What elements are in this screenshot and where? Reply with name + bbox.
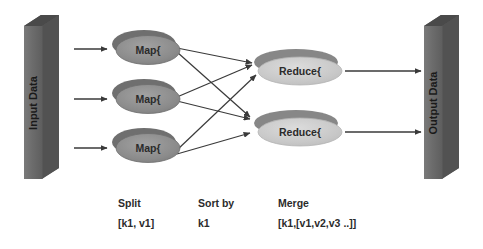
arrow-map1-to-reduce1: [177, 48, 252, 63]
caption-merge-value: [k1,[v1,v2,v3 ..]]: [278, 217, 356, 229]
mapreduce-diagram: Input Data Output Data: [0, 0, 483, 249]
caption-split: Split [k1, v1]: [118, 197, 154, 229]
reduce-node-2-label: Reduce{: [279, 126, 321, 138]
input-block-side-face: [42, 15, 59, 179]
arrow-map2-to-reduce1: [177, 65, 252, 97]
output-data-label: Output Data: [427, 71, 439, 135]
input-data-label: Input Data: [27, 75, 39, 130]
caption-split-value: [k1, v1]: [118, 217, 154, 229]
arrow-map2-to-reduce2: [177, 101, 250, 119]
caption-merge: Merge [k1,[v1,v2,v3 ..]]: [278, 197, 356, 229]
map-to-reduce-arrows: [177, 48, 256, 154]
caption-merge-heading: Merge: [278, 197, 309, 209]
output-block-side-face: [442, 15, 459, 179]
diagram-canvas: Input Data Output Data: [0, 0, 483, 249]
caption-sort-by-heading: Sort by: [198, 197, 234, 209]
map-node-2[interactable]: Map{: [112, 79, 180, 114]
map-node-1-label: Map{: [135, 44, 160, 56]
map-node-1[interactable]: Map{: [112, 30, 180, 65]
map-node-3-label: Map{: [135, 142, 160, 154]
output-data-block: Output Data: [424, 15, 459, 179]
input-to-map-arrows: [74, 49, 107, 148]
map-node-3[interactable]: Map{: [112, 128, 180, 163]
caption-sort-by-value: k1: [198, 217, 210, 229]
caption-split-heading: Split: [118, 197, 141, 209]
map-node-2-label: Map{: [135, 93, 160, 105]
arrow-map1-to-reduce2: [177, 52, 250, 117]
reduce-node-1[interactable]: Reduce{: [254, 49, 342, 85]
caption-sort-by: Sort by k1: [198, 197, 234, 229]
reduce-node-1-label: Reduce{: [279, 65, 321, 77]
input-data-block: Input Data: [24, 15, 59, 179]
reduce-to-output-arrows: [345, 71, 421, 132]
reduce-node-2[interactable]: Reduce{: [254, 110, 342, 146]
arrow-map3-to-reduce2: [177, 133, 250, 154]
